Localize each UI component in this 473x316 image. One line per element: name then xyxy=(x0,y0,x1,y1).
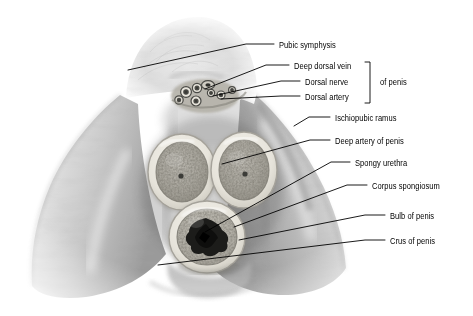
annotation-layer xyxy=(0,0,473,316)
leader-line-deep-dorsal-vein xyxy=(205,65,289,89)
of-penis-bracket xyxy=(365,62,370,103)
label-spongy-urethra: Spongy urethra xyxy=(355,160,407,168)
leader-line-crus-of-penis xyxy=(158,240,385,265)
label-ischiopubic-ramus: Ischiopubic ramus xyxy=(335,115,396,123)
label-dorsal-artery: Dorsal artery xyxy=(305,94,349,102)
label-crus-of-penis: Crus of penis xyxy=(390,238,435,246)
leader-line-spongy-urethra xyxy=(205,162,350,232)
label-deep-dorsal-vein: Deep dorsal vein xyxy=(294,63,351,71)
label-corpus-spongiosum: Corpus spongiosum xyxy=(372,183,440,191)
leader-line-dorsal-artery xyxy=(221,96,300,99)
leader-line-deep-artery xyxy=(222,140,330,164)
label-bulb-of-penis: Bulb of penis xyxy=(390,213,434,221)
label-pubic-symphysis: Pubic symphysis xyxy=(279,42,336,50)
leader-line-corpus-spongiosum xyxy=(234,185,367,227)
leader-line-pubic-symphysis xyxy=(128,44,274,70)
label-dorsal-nerve: Dorsal nerve xyxy=(305,79,348,87)
leader-line-ischiopubic-ramus xyxy=(294,117,330,126)
label-of-penis-group: of penis xyxy=(380,79,407,87)
figure-canvas: Pubic symphysisDeep dorsal veinDorsal ne… xyxy=(0,0,473,316)
leader-line-dorsal-nerve xyxy=(213,81,300,96)
leader-line-bulb-of-penis xyxy=(239,215,385,240)
label-deep-artery: Deep artery of penis xyxy=(335,138,404,146)
